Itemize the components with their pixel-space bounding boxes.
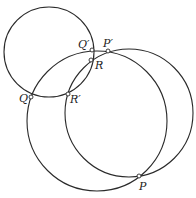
- point-q: [29, 95, 33, 99]
- label-q-prime: Q′: [78, 38, 90, 51]
- left-large-circle: [27, 51, 167, 191]
- point-p: [137, 174, 141, 178]
- label-q: Q: [19, 92, 28, 105]
- geometry-diagram: Q′P′RQR′P: [0, 0, 196, 198]
- point-q-prime: [90, 48, 94, 52]
- right-large-circle: [65, 49, 193, 177]
- label-p-prime: P′: [102, 37, 113, 50]
- small-circle: [4, 7, 94, 97]
- label-p: P: [138, 180, 147, 193]
- point-r: [89, 58, 93, 62]
- label-r: R: [94, 59, 103, 72]
- label-r-prime: R′: [69, 93, 81, 106]
